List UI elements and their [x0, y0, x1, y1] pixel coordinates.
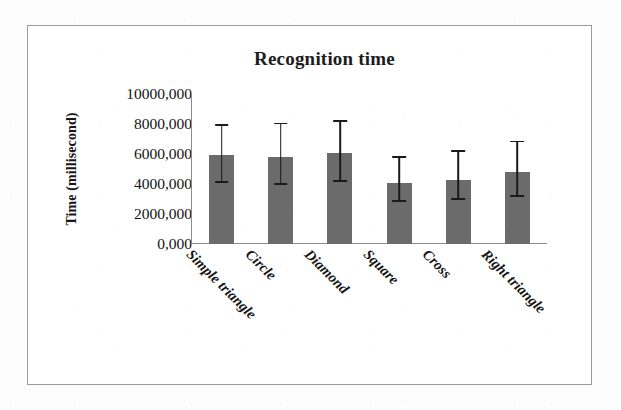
error-bar-cap-lower	[274, 183, 288, 185]
y-tick-label: 2000,000	[76, 205, 192, 223]
y-tick-label: 10000,000	[76, 85, 192, 103]
error-bar-line	[221, 126, 223, 183]
bar-group[interactable]	[505, 94, 530, 244]
bar-group[interactable]	[387, 94, 412, 244]
x-category-label-text: Diamond	[301, 246, 352, 297]
x-category-label: Circle	[242, 246, 280, 284]
bar-group[interactable]	[327, 94, 352, 244]
y-tick-label: 6000,000	[76, 145, 192, 163]
error-bar-cap-upper	[451, 150, 465, 152]
error-bar-line	[517, 142, 519, 197]
bar-group[interactable]	[268, 94, 293, 244]
x-category-label: Square	[360, 246, 402, 288]
error-bar-cap-upper	[392, 156, 406, 158]
error-bar-cap-lower	[451, 198, 465, 200]
y-tick-label: 4000,000	[76, 175, 192, 193]
error-bar-cap-lower	[333, 180, 347, 182]
x-category-label-text: Right triangle	[478, 246, 549, 317]
figure-page: Recognition time Time (millisecond) 1000…	[0, 0, 621, 410]
error-bar-cap-upper	[333, 120, 347, 122]
error-bar-cap-lower	[511, 195, 525, 197]
chart-title: Recognition time	[28, 48, 591, 70]
x-category-label-text: Cross	[419, 246, 455, 282]
x-category-label-text: Circle	[242, 246, 280, 284]
plot-area	[191, 94, 547, 244]
bar-group[interactable]	[446, 94, 471, 244]
y-axis-tick-labels: 10000,0008000,0006000,0004000,0002000,00…	[76, 88, 192, 278]
error-bar-cap-lower	[215, 181, 229, 183]
bar-group[interactable]	[209, 94, 234, 244]
figure-frame: Recognition time Time (millisecond) 1000…	[27, 25, 592, 385]
error-bar-line	[398, 158, 400, 202]
x-category-label: Diamond	[301, 246, 352, 297]
y-tick-label: 8000,000	[76, 115, 192, 133]
error-bar-cap-upper	[511, 141, 525, 143]
x-category-label: Right triangle	[478, 246, 549, 317]
y-tick-label: 0,000	[76, 235, 192, 253]
x-category-label: Cross	[419, 246, 455, 282]
error-bar-cap-upper	[274, 123, 288, 125]
error-bar-line	[280, 124, 282, 185]
bars-layer	[192, 94, 547, 244]
x-category-label-text: Square	[360, 246, 402, 288]
error-bar-cap-lower	[392, 200, 406, 202]
x-axis-category-labels: Simple triangleCircleDiamondSquareCrossR…	[191, 246, 571, 386]
error-bar-cap-upper	[215, 124, 229, 126]
error-bar-line	[339, 122, 341, 182]
error-bar-line	[457, 152, 459, 200]
